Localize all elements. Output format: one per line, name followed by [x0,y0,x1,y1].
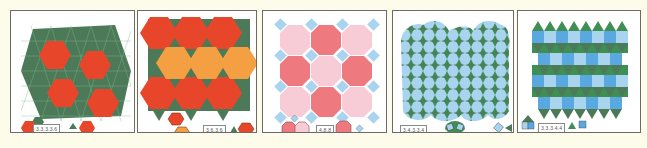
vertex-configuration-label: 3.3.3.4.4 [538,123,565,133]
tiling-panel-snub-square: 3.4.3.3.4 [392,10,514,133]
tile-legend [393,11,514,133]
tile-legend [138,11,257,133]
tile-legend [263,11,387,133]
tiling-panel-trihexagonal: 3.6.3.6 [137,10,257,133]
vertex-configuration-label: 3.3.3.3.6 [33,124,60,133]
tiling-panel-truncated-square: 4.8.8 [262,10,387,133]
tiling-panel-elongated-triangular: 3.3.3.4.4 [517,10,641,133]
tiling-panel-snub-hexagonal: 3.3.3.3.6 [10,10,135,133]
tile-legend [518,11,641,133]
vertex-configuration-label: 4.8.8 [316,125,334,133]
tile-legend [11,11,135,133]
vertex-configuration-label: 3.4.3.3.4 [400,125,427,133]
vertex-configuration-label: 3.6.3.6 [203,125,226,133]
